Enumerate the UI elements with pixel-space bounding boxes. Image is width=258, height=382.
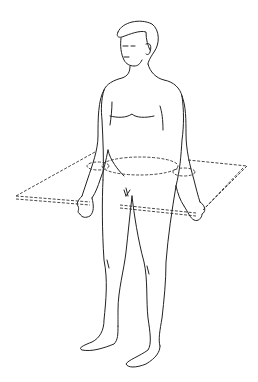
left-forearm-cross-section [87, 162, 109, 170]
anatomy-illustration [0, 0, 258, 382]
right-hand [184, 202, 205, 221]
plane-front-edge [16, 196, 196, 216]
plane-back-left-edge [16, 152, 95, 196]
plane-right-edge [203, 166, 247, 210]
waist-cross-section [102, 157, 178, 175]
transverse-plane [16, 152, 247, 216]
legs [80, 180, 176, 367]
head [117, 21, 158, 66]
torso [101, 64, 183, 196]
left-hand [77, 196, 93, 217]
right-arm [173, 96, 205, 221]
left-arm [77, 90, 109, 217]
plane-back-right-edge [188, 160, 247, 166]
